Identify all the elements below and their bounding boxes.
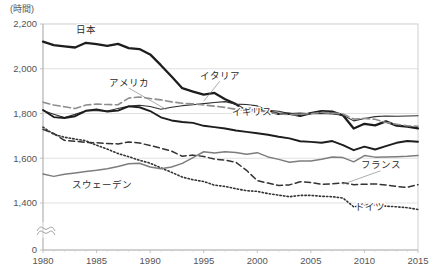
- axis-break-symbol: [37, 227, 55, 231]
- axis-break-symbol: [37, 231, 55, 235]
- x-axis-tick-label: 1990: [140, 255, 161, 266]
- series-label-united-kingdom: イギリス: [232, 106, 272, 117]
- x-axis-tick-label: 1980: [32, 255, 53, 266]
- series-label-sweden: スウェーデン: [72, 179, 132, 190]
- x-axis-tick-label: 2015: [407, 255, 428, 266]
- series-label-united-states: アメリカ: [109, 77, 149, 88]
- line-chart: (時間) 2,2002,0001,8001,6001,4000198019851…: [0, 0, 437, 280]
- series-label-france: フランス: [361, 159, 401, 170]
- y-axis-tick-label: 2,200: [13, 18, 37, 29]
- y-axis-tick-label: 1,600: [13, 153, 37, 164]
- y-axis-tick-label: 1,400: [13, 197, 37, 208]
- x-axis-tick-label: 2010: [354, 255, 375, 266]
- series-label-italy: イタリア: [200, 70, 240, 81]
- leader-line: [204, 81, 220, 101]
- series-line-japan: [43, 42, 418, 129]
- y-axis-tick-label: 2,000: [13, 63, 37, 74]
- x-axis-tick-label: 2005: [300, 255, 321, 266]
- x-axis-tick-label: 1985: [86, 255, 107, 266]
- leader-line: [343, 171, 381, 184]
- series-label-germany: ドイツ: [355, 201, 385, 212]
- series-label-japan: 日本: [76, 24, 96, 35]
- y-axis-tick-label: 0: [32, 244, 37, 255]
- x-axis-tick-label: 1995: [193, 255, 214, 266]
- y-axis-tick-label: 1,800: [13, 108, 37, 119]
- x-axis-tick-label: 2000: [247, 255, 268, 266]
- plot-frame: [43, 24, 418, 250]
- chart-canvas: 2,2002,0001,8001,6001,400019801985199019…: [0, 0, 437, 280]
